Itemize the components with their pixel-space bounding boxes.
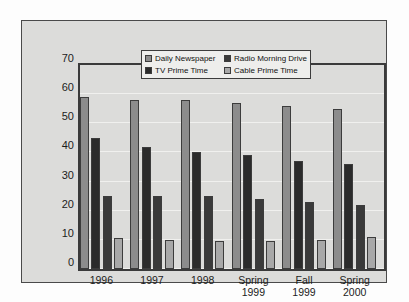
bar-groups (80, 65, 384, 269)
legend-entry: TV Prime Time (145, 65, 222, 77)
y-axis-tick-label: 10 (62, 227, 74, 238)
legend-swatch-icon (145, 67, 152, 74)
bar (192, 152, 201, 269)
bar (80, 97, 89, 269)
bar (255, 199, 264, 269)
y-axis-tick-label: 30 (62, 169, 74, 180)
bar-group (283, 65, 334, 269)
x-axis-tick-labels: 199619971998Spring 1999Fall 1999Spring 2… (78, 274, 386, 302)
bar (114, 238, 123, 269)
bar (243, 155, 252, 269)
y-axis-tick-labels: 010203040506070 (44, 63, 74, 271)
bar (91, 138, 100, 269)
y-axis-tick-label: 0 (68, 257, 74, 268)
x-axis-tick-label: 1998 (191, 274, 214, 286)
legend-label: Radio Morning Drive (234, 55, 307, 63)
bar (103, 196, 112, 269)
bar (282, 106, 291, 269)
legend-label: Cable Prime Time (234, 67, 298, 75)
legend-swatch-icon (224, 67, 231, 74)
x-axis-tick-label: Fall 1999 (292, 274, 315, 298)
bar (294, 161, 303, 269)
legend-entry: Cable Prime Time (224, 65, 307, 77)
x-axis-tick-label: 1997 (140, 274, 163, 286)
x-axis-tick-label: Spring 2000 (339, 274, 369, 298)
bar (165, 240, 174, 269)
bar-group (131, 65, 182, 269)
legend-swatch-icon (145, 55, 152, 62)
y-axis-tick-label: 50 (62, 111, 74, 122)
bar-group (232, 65, 283, 269)
bar (142, 147, 151, 269)
y-axis-tick-label: 60 (62, 82, 74, 93)
bar (305, 202, 314, 269)
bar (215, 241, 224, 269)
plot-area (78, 63, 386, 271)
bar (333, 109, 342, 269)
bar (130, 100, 139, 269)
bar (356, 205, 365, 269)
x-axis-tick-label: Spring 1999 (238, 274, 268, 298)
chart-legend: Daily NewspaperRadio Morning DriveTV Pri… (141, 50, 311, 79)
bar-group (80, 65, 131, 269)
y-axis-tick-label: 20 (62, 198, 74, 209)
y-axis-tick-label: 70 (62, 53, 74, 64)
chart-figure: 010203040506070 199619971998Spring 1999F… (0, 0, 409, 302)
legend-label: Daily Newspaper (155, 55, 215, 63)
bar (232, 103, 241, 269)
bar (153, 196, 162, 269)
legend-label: TV Prime Time (155, 67, 208, 75)
bar (266, 241, 275, 269)
bar (317, 240, 326, 269)
legend-entry: Daily Newspaper (145, 53, 222, 65)
y-axis-tick-label: 40 (62, 140, 74, 151)
bar-group (181, 65, 232, 269)
bar (344, 164, 353, 269)
x-axis-tick-label: 1996 (90, 274, 113, 286)
chart-panel: 010203040506070 199619971998Spring 1999F… (21, 20, 387, 283)
legend-entry: Radio Morning Drive (224, 53, 307, 65)
bar (367, 237, 376, 269)
legend-swatch-icon (224, 55, 231, 62)
bar (204, 196, 213, 269)
bar-group (333, 65, 384, 269)
bar (181, 100, 190, 269)
